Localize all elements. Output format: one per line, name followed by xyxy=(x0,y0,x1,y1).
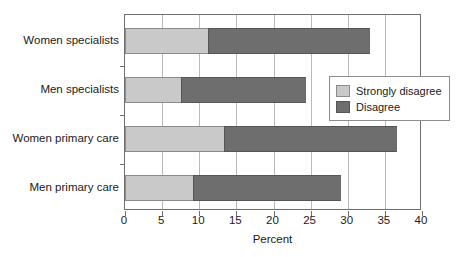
bar-segment-strongly-disagree xyxy=(125,77,181,103)
y-axis-label-1: Men specialists xyxy=(40,83,119,95)
legend-label-disagree: Disagree xyxy=(356,101,400,113)
bar-row xyxy=(125,126,397,152)
legend-label-strongly-disagree: Strongly disagree xyxy=(356,85,442,97)
x-axis-tick-label: 0 xyxy=(121,214,127,226)
x-axis-tick-label: 10 xyxy=(192,214,205,226)
chart-figure: Women specialists Men specialists Women … xyxy=(0,0,461,257)
legend-swatch-strongly-disagree xyxy=(336,85,350,97)
bar-segment-strongly-disagree xyxy=(125,126,224,152)
legend-swatch-disagree xyxy=(336,101,350,113)
x-axis-tick-label: 20 xyxy=(266,214,279,226)
x-axis-tick-label: 35 xyxy=(377,214,390,226)
x-axis-tick-label: 15 xyxy=(229,214,242,226)
y-axis-tick xyxy=(120,66,125,67)
y-axis-label-2: Women primary care xyxy=(12,132,119,144)
x-axis-tick-label: 25 xyxy=(303,214,316,226)
bar-row xyxy=(125,175,341,201)
legend-item-strongly-disagree: Strongly disagree xyxy=(336,83,442,98)
y-axis-label-3: Men primary care xyxy=(30,181,119,193)
bar-segment-disagree xyxy=(208,28,370,54)
x-axis-tick-label: 5 xyxy=(158,214,164,226)
bar-segment-disagree xyxy=(193,175,341,201)
bar-segment-disagree xyxy=(181,77,306,103)
y-axis-label-0: Women specialists xyxy=(23,34,119,46)
legend-item-disagree: Disagree xyxy=(336,99,442,114)
y-axis-tick xyxy=(120,115,125,116)
bar-segment-disagree xyxy=(224,126,397,152)
bar-row xyxy=(125,77,306,103)
bar-segment-strongly-disagree xyxy=(125,175,193,201)
x-axis-tick-label: 40 xyxy=(415,214,428,226)
x-axis-title: Percent xyxy=(124,233,421,245)
bar-segment-strongly-disagree xyxy=(125,28,208,54)
x-axis-tick-label: 30 xyxy=(340,214,353,226)
y-axis-tick xyxy=(120,164,125,165)
chart-legend: Strongly disagree Disagree xyxy=(329,76,450,121)
bar-row xyxy=(125,28,370,54)
